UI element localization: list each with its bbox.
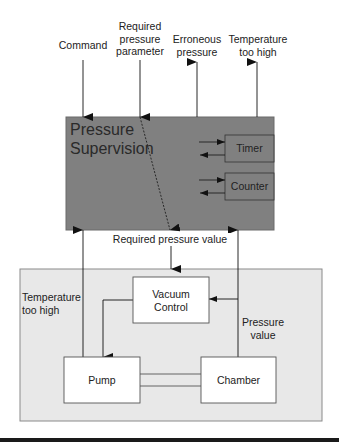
label-line: Temperature <box>226 33 290 46</box>
label-line: Erroneous <box>170 33 224 46</box>
label-line: Required <box>110 20 170 33</box>
required-pressure-parameter-label: Required pressure parameter <box>110 20 170 58</box>
label-line: Control <box>133 301 209 314</box>
temperature-too-high-label: Temperature too high <box>22 291 81 316</box>
label-line: too high <box>22 304 81 317</box>
title-line: Supervision <box>70 139 154 158</box>
label-line: pressure <box>170 46 224 59</box>
diagram-canvas <box>0 0 339 446</box>
command-label: Command <box>55 39 111 52</box>
label-line: pressure <box>110 33 170 46</box>
chamber-label: Chamber <box>201 374 276 387</box>
label-line: Pressure <box>240 316 286 329</box>
pressure-supervision-title: Pressure Supervision <box>70 120 154 158</box>
label-line: value <box>240 329 286 342</box>
pump-label: Pump <box>64 374 140 387</box>
label-line: Temperature <box>22 291 81 304</box>
counter-label: Counter <box>225 180 274 193</box>
label-line: too high <box>226 46 290 59</box>
required-pressure-value-label: Required pressure value <box>105 233 235 246</box>
timer-label: Timer <box>225 142 274 155</box>
title-line: Pressure <box>70 120 154 139</box>
pressure-supervision-diagram: Command Required pressure parameter Erro… <box>0 0 339 446</box>
bottom-rule <box>0 438 339 442</box>
pressure-value-label: Pressure value <box>240 316 286 341</box>
label-line: parameter <box>110 45 170 58</box>
label-line: Vacuum <box>133 288 209 301</box>
temperature-too-high-out-label: Temperature too high <box>226 33 290 58</box>
erroneous-pressure-label: Erroneous pressure <box>170 33 224 58</box>
vacuum-control-label: Vacuum Control <box>133 288 209 313</box>
